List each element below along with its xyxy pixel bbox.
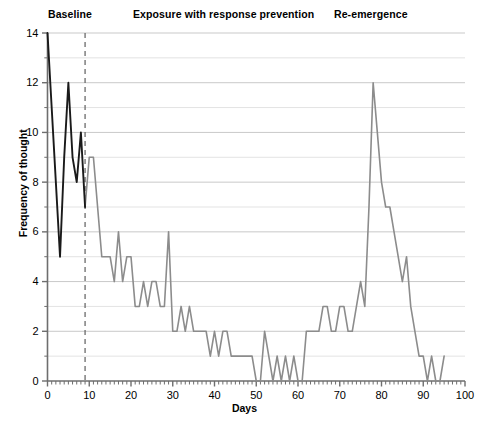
grid-major-lines (48, 33, 466, 331)
x-tick-label: 0 (33, 390, 63, 401)
y-tick-label: 4 (15, 276, 39, 287)
x-tick-label: 70 (325, 390, 355, 401)
x-tick-label: 90 (408, 390, 438, 401)
chart-container: Baseline Exposure with response preventi… (0, 0, 489, 424)
plot-area (0, 0, 489, 424)
y-tick-label: 2 (15, 326, 39, 337)
x-tick-label: 60 (283, 390, 313, 401)
x-tick-label: 40 (200, 390, 230, 401)
x-tick-label: 10 (74, 390, 104, 401)
grid-minor-lines (48, 58, 466, 356)
y-tick-label: 12 (15, 77, 39, 88)
x-tick-label: 20 (116, 390, 146, 401)
x-tick-label: 100 (450, 390, 480, 401)
x-tick-label: 30 (158, 390, 188, 401)
axis-ticks (42, 33, 465, 387)
data-series-line-baseline (48, 33, 86, 257)
x-axis-title: Days (0, 403, 489, 414)
y-tick-label: 14 (15, 28, 39, 39)
x-tick-label: 50 (241, 390, 271, 401)
x-tick-label: 80 (367, 390, 397, 401)
y-tick-label: 0 (15, 376, 39, 387)
y-axis-title: Frequency of thought (18, 113, 29, 253)
